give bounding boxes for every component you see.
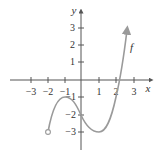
y-axis-label: y — [71, 4, 77, 16]
x-tick-label: 3 — [132, 86, 137, 97]
curve-f — [48, 30, 127, 132]
y-tick-label: 2 — [70, 39, 75, 50]
y-tick-label: −2 — [65, 109, 76, 120]
curve-label-f: f — [130, 41, 135, 53]
x-tick-label: −3 — [26, 86, 37, 97]
y-tick-label: 3 — [70, 22, 75, 33]
function-graph: −3 −2 −1 1 2 3 3 2 1 −1 −2 −3 x y f — [0, 0, 162, 159]
open-endpoint-marker — [46, 130, 51, 135]
y-tick-label: 1 — [70, 56, 75, 67]
x-tick-label: −2 — [43, 86, 54, 97]
y-tick-label: −3 — [65, 126, 76, 137]
x-axis-label: x — [145, 82, 151, 94]
x-tick-label: 1 — [97, 86, 102, 97]
